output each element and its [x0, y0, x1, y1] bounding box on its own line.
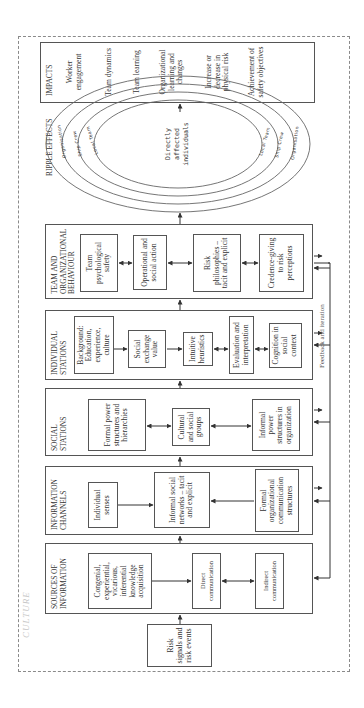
ring-label-ship-crew-top: Ship Crew: [72, 130, 83, 157]
ring-label-local-team-top: Local Team: [85, 126, 99, 156]
ripple-center-line-2: affected: [173, 128, 181, 160]
flow-arrows: [114, 76, 330, 624]
diagram-canvas: CULTURE Risk signals and risk events SOU…: [0, 0, 364, 708]
feedback-line: [328, 263, 330, 578]
connectors-layer: Directly affected individuals Local Team…: [0, 0, 364, 708]
ring-label-local-team-bottom: Local Team: [258, 126, 271, 156]
ripple-center-line-3: individuals: [182, 122, 190, 166]
ring-label-ship-crew-bottom: Ship Crew: [274, 131, 284, 158]
ripple-center-line-1: Directly: [164, 128, 172, 160]
